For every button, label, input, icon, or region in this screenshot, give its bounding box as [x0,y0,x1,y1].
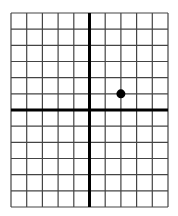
data-point [116,89,125,98]
coordinate-grid [0,0,178,216]
data-points [116,89,125,98]
axes [11,13,168,207]
